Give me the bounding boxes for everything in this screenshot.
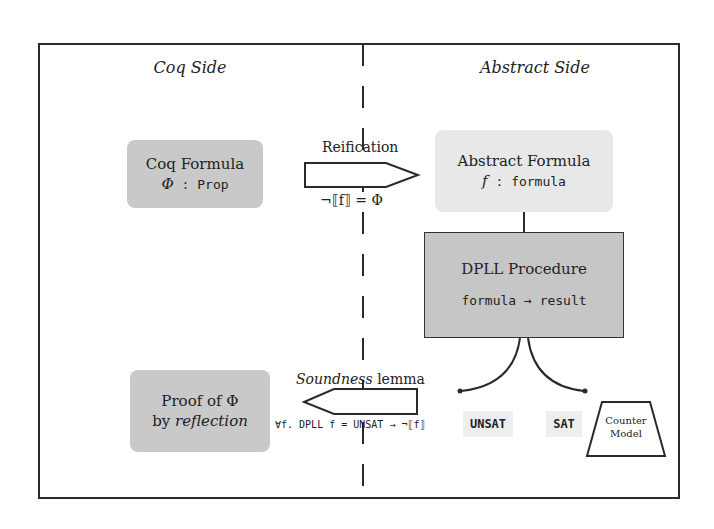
abstract-formula-typing: f : formula (482, 171, 566, 192)
prop-type: Prop (197, 177, 228, 192)
model-label: Model (596, 427, 656, 440)
proof-line1: Proof of Φ (161, 391, 238, 411)
proof-box: Proof of Φ by reflection (130, 370, 270, 452)
soundness-word: Soundness (296, 371, 373, 387)
reification-label: Reification (322, 139, 398, 155)
counter-label: Counter (596, 414, 656, 427)
counter-model-label: Counter Model (596, 414, 656, 440)
phi-symbol: Φ (161, 175, 173, 193)
dpll-signature: formula → result (461, 291, 586, 311)
abstract-formula-box: Abstract Formula f : formula (435, 130, 613, 212)
coq-formula-typing: Φ : Prop (161, 174, 228, 195)
proof-reflection: reflection (175, 412, 248, 430)
typing-separator: : (174, 177, 197, 192)
abstract-side-title: Abstract Side (455, 58, 615, 77)
proof-line2: by reflection (152, 411, 248, 431)
soundness-label: Soundness lemma (296, 371, 425, 387)
abstract-formula-label: Abstract Formula (458, 151, 591, 171)
typing-separator: : (488, 174, 511, 189)
lemma-word: lemma (373, 371, 425, 387)
proof-by: by (152, 412, 175, 430)
unsat-result: UNSAT (463, 411, 513, 437)
sat-result: SAT (546, 411, 582, 437)
dpll-procedure-box: DPLL Procedure formula → result (424, 232, 624, 338)
coq-formula-label: Coq Formula (146, 154, 244, 174)
formula-type: formula (511, 174, 566, 189)
reification-equation: ¬⟦f⟧ = Φ (320, 192, 383, 208)
coq-formula-box: Coq Formula Φ : Prop (127, 140, 263, 208)
coq-side-title: Coq Side (110, 58, 270, 77)
soundness-statement: ∀f. DPLL f = UNSAT → ¬⟦f⟧ (275, 419, 426, 430)
dpll-title: DPLL Procedure (461, 259, 587, 279)
